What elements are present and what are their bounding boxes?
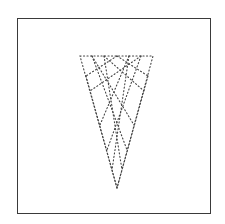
lattice-line (90, 56, 141, 91)
triangle-lattice-figure (0, 0, 225, 224)
lattice-line (86, 76, 117, 188)
lattice-line (92, 56, 127, 150)
lattice-line (86, 56, 117, 76)
lattice-line (107, 56, 141, 150)
lattice-line (100, 56, 129, 125)
lattice-lines (86, 56, 148, 188)
